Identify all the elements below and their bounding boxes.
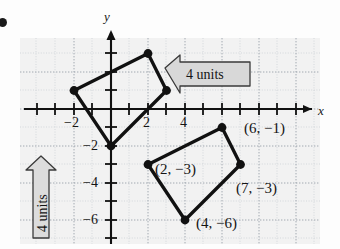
graph-canvas [0, 0, 340, 249]
point-label-2-neg3: (2, −3) [155, 162, 196, 177]
point-label-6-neg1: (6, −1) [244, 121, 285, 136]
x-axis-label: x [318, 104, 324, 117]
x-tick-label-4: 4 [180, 116, 187, 130]
coordinate-graph-figure: x y −2 2 4 −2 −4 −6 (6, −1) (2, −3) (7, … [0, 0, 340, 249]
y-tick-label-neg2: −2 [83, 139, 98, 153]
horizontal-callout-label: 4 units [186, 67, 224, 83]
vertical-callout-label: 4 units [35, 194, 51, 232]
y-tick-label-neg6: −6 [83, 213, 98, 227]
point-label-4-neg6: (4, −6) [196, 216, 237, 231]
y-tick-label-neg4: −4 [83, 176, 98, 190]
y-axis-label: y [104, 10, 110, 23]
point-label-7-neg3: (7, −3) [236, 181, 277, 196]
x-tick-label-2: 2 [143, 116, 150, 130]
x-tick-label-neg2: −2 [64, 116, 79, 130]
y-axis-arrowhead [107, 30, 116, 40]
